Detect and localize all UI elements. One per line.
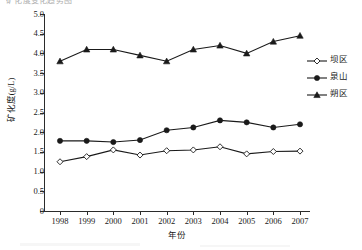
legend-marker-icon — [306, 53, 328, 65]
chart-legend: 坝区泉山朔区 — [306, 50, 362, 101]
series-line — [60, 147, 300, 162]
legend-item-朔区[interactable]: 朔区 — [306, 84, 362, 101]
data-point — [297, 32, 303, 38]
data-point — [110, 147, 116, 153]
plot-series-layer — [0, 0, 362, 250]
data-point — [57, 159, 63, 165]
data-point — [164, 128, 169, 133]
data-point — [137, 152, 143, 158]
series-坝区 — [57, 144, 303, 165]
data-point — [190, 147, 196, 153]
data-point — [244, 151, 250, 157]
data-point — [244, 120, 249, 125]
series-朔区 — [57, 32, 303, 63]
data-point — [297, 148, 303, 154]
legend-marker-icon — [306, 87, 328, 99]
x-axis-title: 年份 — [44, 230, 310, 240]
legend-label: 坝区 — [330, 54, 348, 64]
y-axis-title: 矿化度(g/L) — [6, 45, 16, 155]
legend-item-泉山[interactable]: 泉山 — [306, 67, 362, 84]
data-point — [270, 149, 276, 155]
chart-figure: 矿化度变化趋势图 00.51.01.52.02.53.03.54.04.55.0… — [0, 0, 362, 250]
series-line — [60, 36, 300, 62]
data-point — [57, 58, 63, 64]
data-point — [217, 42, 223, 48]
data-point — [84, 154, 90, 160]
data-point — [137, 137, 142, 142]
legend-label: 泉山 — [330, 71, 348, 81]
data-point — [57, 138, 62, 143]
data-point — [191, 125, 196, 130]
data-point — [217, 144, 223, 150]
data-point — [271, 125, 276, 130]
data-point — [111, 139, 116, 144]
legend-marker-icon — [306, 70, 328, 82]
data-point — [217, 118, 222, 123]
data-point — [297, 122, 302, 127]
series-line — [60, 120, 300, 142]
series-泉山 — [57, 118, 302, 145]
data-point — [164, 148, 170, 154]
legend-item-坝区[interactable]: 坝区 — [306, 50, 362, 67]
data-point — [84, 138, 89, 143]
legend-label: 朔区 — [330, 88, 348, 98]
